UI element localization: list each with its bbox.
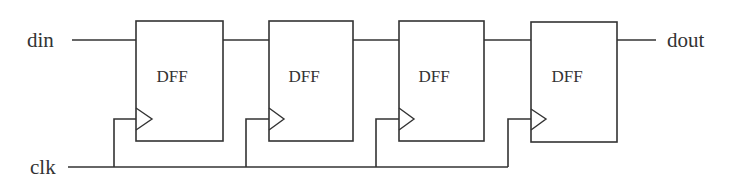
clk-branch-3 — [376, 119, 399, 167]
clk-label: clk — [30, 155, 56, 179]
clk-branch-2 — [246, 119, 269, 167]
dff-stage-2: DFF — [269, 21, 353, 141]
clk-branch-4 — [508, 119, 531, 167]
shift-register-diagram: din clk dout DFF DFF — [0, 0, 738, 183]
dout-label: dout — [667, 28, 705, 52]
dff-label: DFF — [156, 67, 187, 86]
dff-label: DFF — [551, 67, 582, 86]
diagram-canvas: din clk dout DFF DFF — [0, 0, 738, 183]
dff-stage-1: DFF — [136, 21, 223, 141]
dff-stage-3: DFF — [399, 21, 484, 141]
dff-stage-4: DFF — [531, 22, 617, 142]
dff-label: DFF — [418, 67, 449, 86]
clk-branch-1 — [114, 119, 136, 167]
din-label: din — [27, 28, 54, 52]
dff-label: DFF — [288, 67, 319, 86]
